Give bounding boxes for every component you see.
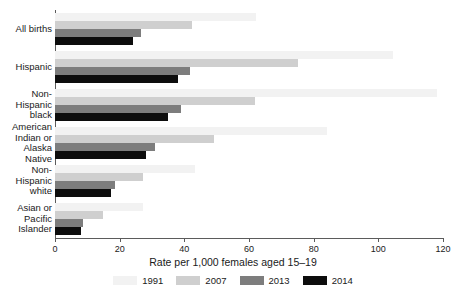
bar-row <box>55 181 443 189</box>
legend-swatch <box>176 276 200 285</box>
category-label: Asian or Pacific Islander <box>0 203 52 235</box>
bar-group <box>55 89 443 121</box>
bar-2013[interactable] <box>55 67 190 75</box>
legend-swatch <box>113 276 137 285</box>
legend-item[interactable]: 2013 <box>240 275 290 286</box>
bar-group <box>55 13 443 45</box>
bar-2007[interactable] <box>55 173 143 181</box>
bar-1991[interactable] <box>55 13 256 21</box>
bar-row <box>55 21 443 29</box>
bar-row <box>55 75 443 83</box>
bar-row <box>55 211 443 219</box>
legend-label: 2007 <box>205 275 226 286</box>
category-label: American Indian or Alaska Native <box>0 122 52 164</box>
bar-row <box>55 151 443 159</box>
bar-2013[interactable] <box>55 181 115 189</box>
bar-group <box>55 51 443 83</box>
bar-1991[interactable] <box>55 127 327 135</box>
bar-row <box>55 97 443 105</box>
bar-row <box>55 51 443 59</box>
bar-group <box>55 203 443 235</box>
bar-1991[interactable] <box>55 165 195 173</box>
x-axis-tick-label: 20 <box>115 244 125 254</box>
x-axis-tick-label: 100 <box>371 244 386 254</box>
x-axis-tick <box>55 238 56 242</box>
bar-2013[interactable] <box>55 219 83 227</box>
bar-row <box>55 113 443 121</box>
bar-row <box>55 37 443 45</box>
bar-1991[interactable] <box>55 89 437 97</box>
bar-2007[interactable] <box>55 211 103 219</box>
bar-chart: All birthsHispanicNon- Hispanic blackAme… <box>0 0 466 299</box>
x-axis-tick <box>249 238 250 242</box>
legend-label: 1991 <box>142 275 163 286</box>
bar-row <box>55 89 443 97</box>
chart-legend: 1991200720132014 <box>0 275 466 286</box>
x-axis-tick <box>378 238 379 242</box>
bar-2013[interactable] <box>55 29 141 37</box>
x-axis-tick <box>120 238 121 242</box>
legend-item[interactable]: 1991 <box>113 275 163 286</box>
bar-row <box>55 13 443 21</box>
bar-1991[interactable] <box>55 203 143 211</box>
legend-label: 2014 <box>332 275 353 286</box>
bar-row <box>55 59 443 67</box>
bar-2014[interactable] <box>55 189 111 197</box>
bar-2014[interactable] <box>55 151 146 159</box>
x-axis-tick-label: 120 <box>435 244 450 254</box>
bar-row <box>55 127 443 135</box>
bar-row <box>55 189 443 197</box>
bar-row <box>55 135 443 143</box>
bar-2014[interactable] <box>55 75 178 83</box>
x-axis-tick-label: 80 <box>309 244 319 254</box>
bar-2007[interactable] <box>55 97 255 105</box>
legend-swatch <box>240 276 264 285</box>
bar-2007[interactable] <box>55 59 298 67</box>
bar-2013[interactable] <box>55 143 155 151</box>
bar-row <box>55 173 443 181</box>
x-axis-tick-label: 0 <box>52 244 57 254</box>
bar-row <box>55 143 443 151</box>
category-label: Non- Hispanic black <box>0 89 52 121</box>
bar-2007[interactable] <box>55 21 192 29</box>
category-label: All births <box>0 24 52 35</box>
x-axis-tick-label: 40 <box>179 244 189 254</box>
bar-2007[interactable] <box>55 135 214 143</box>
category-axis-labels: All birthsHispanicNon- Hispanic blackAme… <box>0 10 52 238</box>
category-label: Hispanic <box>0 62 52 73</box>
bar-group <box>55 165 443 197</box>
legend-label: 2013 <box>269 275 290 286</box>
legend-item[interactable]: 2007 <box>176 275 226 286</box>
bar-row <box>55 165 443 173</box>
bar-row <box>55 219 443 227</box>
bar-row <box>55 29 443 37</box>
legend-swatch <box>303 276 327 285</box>
x-axis-tick-label: 60 <box>244 244 254 254</box>
bar-1991[interactable] <box>55 51 393 59</box>
x-axis-title: Rate per 1,000 females aged 15–19 <box>0 256 466 268</box>
bar-2014[interactable] <box>55 37 133 45</box>
bar-row <box>55 105 443 113</box>
bar-row <box>55 227 443 235</box>
bar-2014[interactable] <box>55 113 168 121</box>
x-axis-tick <box>443 238 444 242</box>
legend-item[interactable]: 2014 <box>303 275 353 286</box>
bar-2013[interactable] <box>55 105 181 113</box>
plot-area <box>55 10 443 238</box>
bar-row <box>55 67 443 75</box>
category-label: Non- Hispanic white <box>0 165 52 197</box>
x-axis-tick <box>314 238 315 242</box>
bar-row <box>55 203 443 211</box>
x-axis-tick <box>184 238 185 242</box>
bar-group <box>55 127 443 159</box>
bar-2014[interactable] <box>55 227 81 235</box>
